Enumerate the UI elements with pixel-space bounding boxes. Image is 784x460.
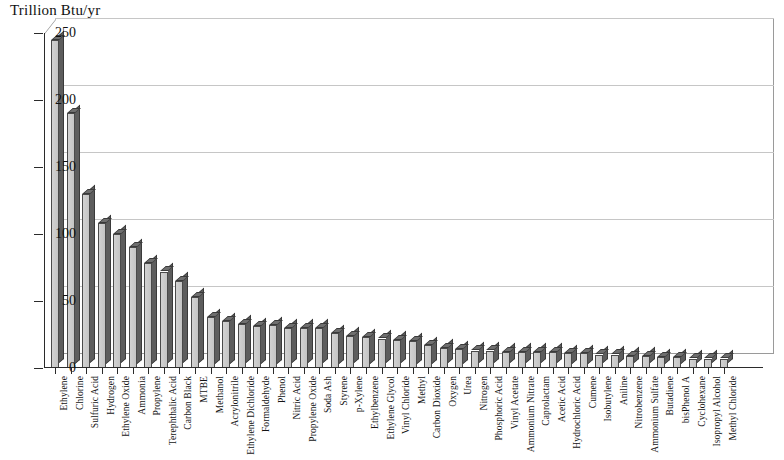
bar-front-face — [362, 337, 370, 368]
bar[interactable] — [220, 321, 235, 368]
bar[interactable] — [438, 348, 453, 368]
x-axis-tick-label: Nitrobenzene — [634, 376, 644, 428]
y-axis-tick-label: 200 — [55, 92, 76, 108]
bar-side-face — [510, 343, 515, 364]
bar-front-face — [191, 297, 199, 368]
x-axis-tick — [630, 367, 631, 374]
x-axis-tick — [102, 367, 103, 374]
x-axis-tick-label: Caprolactam — [541, 376, 551, 426]
x-axis-tick — [568, 367, 569, 374]
x-axis-tick-label: Nitrogen — [479, 376, 489, 411]
x-axis-tick-label: Ethylene Glycol — [386, 376, 396, 440]
bar[interactable] — [298, 328, 313, 368]
x-axis-tick — [475, 367, 476, 374]
bar[interactable] — [80, 194, 95, 368]
bar[interactable] — [391, 340, 406, 368]
bar[interactable] — [547, 352, 562, 368]
x-axis-tick — [553, 367, 554, 374]
bar[interactable] — [189, 297, 204, 368]
bar-front-face — [549, 352, 557, 368]
y-axis-tick-label: 50 — [62, 293, 76, 309]
bar[interactable] — [111, 234, 126, 368]
x-axis-tick — [708, 367, 709, 374]
bar-front-face — [611, 355, 619, 368]
bar[interactable] — [453, 349, 468, 368]
bar-front-face — [113, 234, 121, 368]
bar[interactable] — [360, 337, 375, 368]
x-axis-tick-label: Cyclohexane — [697, 376, 707, 427]
x-axis-tick-label: Butadiene — [665, 376, 675, 415]
bar-front-face — [595, 355, 603, 368]
x-axis-tick-label: p-Xylene — [354, 376, 364, 412]
x-axis-tick — [428, 367, 429, 374]
bar[interactable] — [562, 353, 577, 368]
bar-front-face — [315, 328, 323, 368]
x-axis-tick — [366, 367, 367, 374]
bar[interactable] — [96, 223, 111, 368]
bar-front-face — [269, 325, 277, 368]
bar-front-face — [253, 326, 261, 368]
bar[interactable] — [282, 328, 297, 368]
x-axis-tick — [117, 367, 118, 374]
bar[interactable] — [407, 341, 422, 368]
bar-chart: Trillion Btu/yr 050100150200250 Ethylene… — [0, 0, 784, 460]
y-axis-tick — [34, 33, 43, 34]
bar[interactable] — [609, 355, 624, 368]
bar-side-face — [121, 225, 126, 364]
bar-front-face — [175, 281, 183, 368]
bar[interactable] — [142, 263, 157, 368]
x-axis-tick — [615, 367, 616, 374]
x-axis-tick-label: Ethylene Oxide — [121, 376, 131, 437]
bar[interactable] — [516, 352, 531, 368]
bar[interactable] — [329, 333, 344, 368]
bar-front-face — [284, 328, 292, 368]
x-axis-tick — [273, 367, 274, 374]
x-axis-tick-label: Ethylene — [59, 376, 69, 411]
x-axis-tick — [304, 367, 305, 374]
x-axis-tick — [71, 367, 72, 374]
bar[interactable] — [376, 339, 391, 368]
bar-front-face — [533, 352, 541, 368]
x-axis-tick-label: Nitric Acid — [292, 376, 302, 420]
bar[interactable] — [205, 317, 220, 368]
bar-side-face — [526, 343, 531, 364]
x-axis-tick-label: Urea — [463, 376, 473, 395]
x-axis-tick-label: Styrene — [339, 376, 349, 406]
x-axis-tick — [179, 367, 180, 374]
bar[interactable] — [531, 352, 546, 368]
bar-front-face — [378, 339, 386, 368]
bar-front-face — [564, 353, 572, 368]
x-axis-tick-label: Methyl — [417, 376, 427, 404]
bar[interactable] — [158, 272, 173, 368]
x-axis-labels: EthyleneChlorineSulfuric AcidHydrogenEth… — [45, 376, 780, 460]
bar[interactable] — [500, 352, 515, 368]
bar[interactable] — [251, 326, 266, 368]
x-axis-tick-label: Acetic Acid — [557, 376, 567, 422]
bar[interactable] — [344, 336, 359, 368]
y-axis-tick — [34, 167, 43, 168]
bar[interactable] — [127, 247, 142, 368]
bar-front-face — [455, 349, 463, 368]
bar[interactable] — [267, 325, 282, 368]
bar[interactable] — [578, 353, 593, 368]
bar-side-face — [557, 343, 562, 364]
bar[interactable] — [236, 324, 251, 368]
bar-side-face — [137, 238, 142, 363]
y-axis-tick-label: 100 — [55, 226, 76, 242]
x-axis-tick-label: Ammonium Sulfate — [650, 376, 660, 453]
x-axis-tick — [537, 367, 538, 374]
bar[interactable] — [422, 345, 437, 368]
x-axis-tick — [506, 367, 507, 374]
bar-front-face — [486, 351, 494, 368]
bar-front-face — [160, 272, 168, 368]
bar[interactable] — [593, 355, 608, 368]
bar-front-face — [409, 341, 417, 368]
bar[interactable] — [173, 281, 188, 368]
bar[interactable] — [484, 351, 499, 368]
bar[interactable] — [469, 351, 484, 368]
x-axis-tick — [724, 367, 725, 374]
bar-side-face — [152, 254, 157, 363]
bar-front-face — [518, 352, 526, 368]
x-axis-tick — [382, 367, 383, 374]
bar[interactable] — [313, 328, 328, 368]
